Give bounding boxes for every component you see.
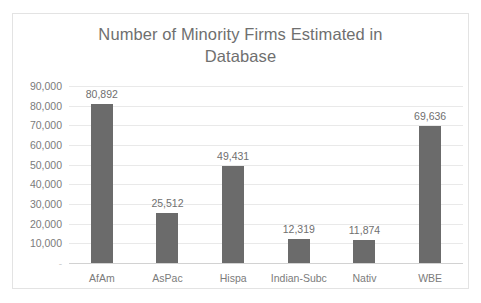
bar-group[interactable]: 49,431Hispa — [200, 86, 266, 263]
x-axis-category-label: AsPac — [152, 272, 182, 284]
bar[interactable] — [91, 104, 113, 263]
y-axis-tick-label: 60,000 — [30, 139, 62, 151]
x-axis-category-label: Indian-Subc — [271, 272, 327, 284]
chart-title-line-2: Database — [53, 46, 428, 68]
bar[interactable] — [353, 240, 375, 263]
x-axis-category-label: WBE — [418, 272, 442, 284]
x-axis-category-label: Nativ — [353, 272, 377, 284]
bar[interactable] — [288, 239, 310, 263]
plot-area: -10,00020,00030,00040,00050,00060,00070,… — [69, 86, 463, 263]
bar-series: 80,892AfAm25,512AsPac49,431Hispa12,319In… — [69, 86, 463, 263]
y-axis-tick-label: 20,000 — [30, 218, 62, 230]
chart-title-line-1: Number of Minority Firms Estimated in — [53, 24, 428, 46]
bar-value-label: 69,636 — [414, 110, 446, 122]
y-axis-tick-label: 80,000 — [30, 100, 62, 112]
bar-value-label: 80,892 — [86, 88, 118, 100]
bar-group[interactable]: 12,319Indian-Subc — [266, 86, 332, 263]
bar-group[interactable]: 11,874Nativ — [332, 86, 398, 263]
y-axis-tick-label: 10,000 — [30, 237, 62, 249]
bar-value-label: 25,512 — [151, 197, 183, 209]
y-axis-tick-label: 40,000 — [30, 178, 62, 190]
chart-frame: Number of Minority Firms Estimated in Da… — [12, 13, 469, 289]
bar[interactable] — [156, 213, 178, 263]
y-axis-tick-label: 30,000 — [30, 198, 62, 210]
bar-value-label: 49,431 — [217, 150, 249, 162]
bar-value-label: 12,319 — [283, 223, 315, 235]
x-axis-category-label: AfAm — [89, 272, 115, 284]
bar[interactable] — [419, 126, 441, 263]
bar-group[interactable]: 69,636WBE — [397, 86, 463, 263]
y-axis-tick-label: 90,000 — [30, 80, 62, 92]
bar-group[interactable]: 25,512AsPac — [135, 86, 201, 263]
bar[interactable] — [222, 166, 244, 263]
gridline — [69, 263, 463, 264]
bar-value-label: 11,874 — [349, 224, 380, 236]
y-axis-tick-label: 70,000 — [30, 119, 62, 131]
bar-group[interactable]: 80,892AfAm — [69, 86, 135, 263]
chart-title: Number of Minority Firms Estimated in Da… — [53, 24, 428, 68]
x-axis-category-label: Hispa — [220, 272, 247, 284]
y-axis-tick-label: - — [59, 258, 62, 269]
y-axis-tick-label: 50,000 — [30, 159, 62, 171]
